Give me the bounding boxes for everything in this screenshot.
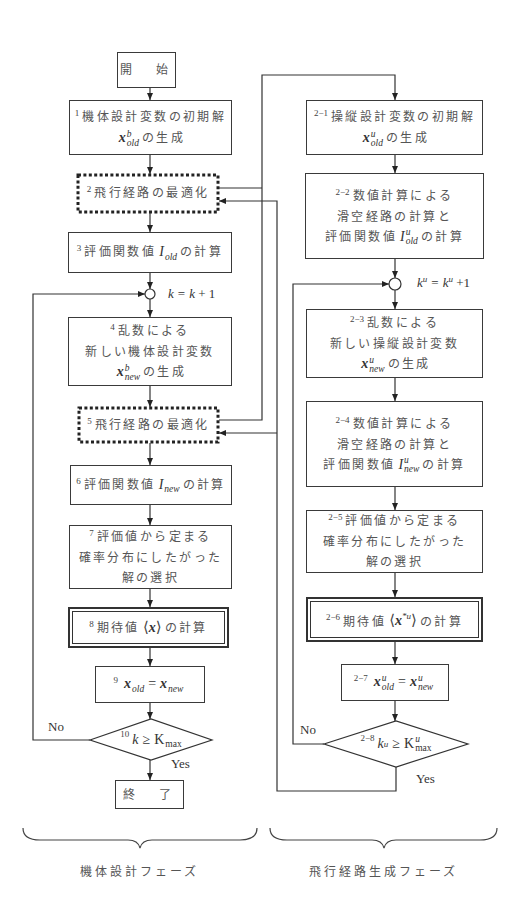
step-number: 8 bbox=[89, 619, 94, 629]
brace-left bbox=[23, 828, 257, 848]
step-number: 2−6 bbox=[326, 612, 340, 622]
rhs-base: x bbox=[410, 674, 417, 689]
var-sub: new bbox=[404, 465, 419, 474]
step-2-1-line2: xuoldの生成 bbox=[360, 128, 429, 148]
yes-label-left: Yes bbox=[171, 756, 190, 772]
counter-lhs: k bbox=[168, 286, 174, 301]
cond-bound-base: K bbox=[404, 736, 414, 752]
step-2-3-line3: xunewの生成 bbox=[358, 354, 431, 374]
var-sub: old bbox=[127, 139, 139, 148]
step-prefix: 評価関数値 bbox=[325, 230, 397, 244]
counter-rhs-sup: u bbox=[448, 274, 453, 284]
cond-bound-base: K bbox=[154, 732, 164, 748]
equation-x-old-eq-x-new: xold=xnew bbox=[124, 676, 183, 691]
step-prefix: 評価関数値 bbox=[323, 458, 395, 472]
step-number: 7 bbox=[89, 528, 94, 538]
step-number: 3 bbox=[77, 243, 82, 253]
brace-right bbox=[270, 828, 497, 848]
junction-circle-left bbox=[145, 289, 155, 299]
variable-i-u-old: Iuold bbox=[400, 229, 418, 244]
var-sup: *u bbox=[402, 612, 411, 622]
step-text: 評価値から定まる bbox=[97, 530, 212, 544]
step-suffix: の計算 bbox=[183, 478, 226, 492]
step-text: 新しい機体設計変数 bbox=[85, 345, 215, 359]
step-1-line1: 1機体設計変数の初期解 bbox=[75, 107, 227, 128]
step-2-line: 2飛行経路の最適化 bbox=[87, 183, 210, 204]
step-number: 2−8 bbox=[361, 733, 375, 743]
variable-i-u-new: Iunew bbox=[398, 457, 419, 472]
cond-bound-scripts: max bbox=[165, 731, 181, 749]
step-2-4-line2: 滑空経路の計算と bbox=[337, 435, 452, 455]
cond-var-sup: u bbox=[384, 739, 389, 749]
step-9-box: 9xold=xnew bbox=[95, 666, 205, 703]
step-1-box: 1機体設計変数の初期解 xboldの生成 bbox=[69, 100, 232, 155]
step-suffix: の生成 bbox=[143, 365, 186, 379]
var-base: I bbox=[159, 244, 164, 259]
decision-2-8-text: 2−8ku≥Kumax bbox=[324, 721, 468, 767]
step-text: 機体設計変数の初期解 bbox=[82, 110, 226, 124]
counter-increment-left: k=k + 1 bbox=[168, 286, 215, 302]
step-8-line: 8期待値⟨x⟩の計算 bbox=[89, 617, 208, 639]
step-2-6-line: 2−6期待値⟨x*u⟩の計算 bbox=[326, 607, 463, 633]
step-2-5-line2: 確率分布にしたがった bbox=[323, 532, 467, 552]
phase-label-flightpath-generation: 飛行経路生成フェーズ bbox=[309, 862, 458, 879]
step-suffix: の生成 bbox=[142, 131, 185, 145]
step-suffix: の生成 bbox=[386, 131, 429, 145]
flowchart-canvas: 開 始 1機体設計変数の初期解 xboldの生成 2飛行経路の最適化 3評価関数… bbox=[0, 0, 525, 907]
step-8-expectation-box: 8期待値⟨x⟩の計算 bbox=[68, 607, 229, 648]
junction-circle-right bbox=[389, 278, 401, 290]
step-text: 飛行経路の最適化 bbox=[94, 186, 209, 200]
step-number: 1 bbox=[75, 108, 80, 118]
no-label-left: No bbox=[48, 719, 64, 735]
step-2-4-line3: 評価関数値Iunewの計算 bbox=[323, 455, 465, 475]
step-text: 乱数による bbox=[367, 316, 439, 330]
step-number: 10 bbox=[120, 729, 129, 739]
var-sub: new bbox=[369, 365, 384, 374]
step-2-flightpath-opt-box: 2飛行経路の最適化 bbox=[77, 174, 219, 213]
lhs-sub: old bbox=[132, 685, 144, 694]
var-base: I bbox=[398, 457, 403, 472]
step-number: 9 bbox=[114, 675, 119, 685]
end-terminal: 終 了 bbox=[115, 780, 184, 809]
step-3-box: 3評価関数値Ioldの計算 bbox=[68, 232, 232, 273]
equation-xu-old-eq-xu-new: xuold=xunew bbox=[374, 674, 433, 689]
var-scripts: uold bbox=[406, 228, 418, 246]
counter-eq: = bbox=[431, 275, 438, 290]
step-2-4-box: 2−4数値計算による 滑空経路の計算と 評価関数値Iunewの計算 bbox=[306, 401, 483, 487]
step-number: 2−2 bbox=[336, 187, 350, 197]
var-base: x bbox=[395, 613, 402, 628]
cond-bound-scripts: umax bbox=[415, 735, 431, 753]
step-suffix: の生成 bbox=[388, 357, 431, 371]
phase-label-airframe-design: 機体設計フェーズ bbox=[80, 862, 199, 879]
step-number: 2−3 bbox=[350, 314, 364, 324]
step-9-line: 9xold=xnew bbox=[114, 674, 187, 695]
step-text: 乱数による bbox=[118, 324, 190, 338]
step-2-1-line1: 2−1操縦設計変数の初期解 bbox=[314, 107, 475, 128]
step-4-box: 4乱数による 新しい機体設計変数 xbnewの生成 bbox=[68, 317, 232, 386]
step-suffix: の計算 bbox=[180, 245, 223, 259]
rhs-sub: new bbox=[418, 683, 433, 692]
step-number: 2−4 bbox=[336, 415, 350, 425]
step-3-line: 3評価関数値Ioldの計算 bbox=[77, 242, 224, 263]
step-text: 確率分布にしたがった bbox=[79, 551, 223, 565]
counter-eq: = bbox=[178, 286, 185, 301]
step-2-7-line: 2−7xuold=xunew bbox=[354, 672, 436, 693]
var-scripts: old bbox=[165, 244, 177, 262]
no-label-right: No bbox=[300, 722, 316, 738]
step-7-line3: 解の選択 bbox=[122, 568, 180, 588]
step-5-line: 5飛行経路の最適化 bbox=[87, 415, 210, 436]
step-2-2-line1: 2−2数値計算による bbox=[336, 186, 454, 207]
lhs-sub: old bbox=[382, 683, 394, 692]
step-4-line3: xbnewの生成 bbox=[114, 362, 187, 382]
step-number: 5 bbox=[87, 416, 92, 426]
step-text: 解の選択 bbox=[122, 571, 180, 585]
step-number: 2−5 bbox=[328, 512, 342, 522]
step-2-2-box: 2−2数値計算による 滑空経路の計算と 評価関数値Iuoldの計算 bbox=[305, 173, 484, 259]
lhs-scripts: old bbox=[132, 676, 144, 694]
cond-op: ≥ bbox=[143, 732, 151, 748]
step-number: 2 bbox=[87, 184, 92, 194]
step-2-2-line2: 滑空経路の計算と bbox=[337, 207, 452, 227]
rhs-scripts: new bbox=[168, 676, 183, 694]
start-label: 開 始 bbox=[120, 60, 174, 80]
bound-sub: max bbox=[415, 744, 431, 753]
